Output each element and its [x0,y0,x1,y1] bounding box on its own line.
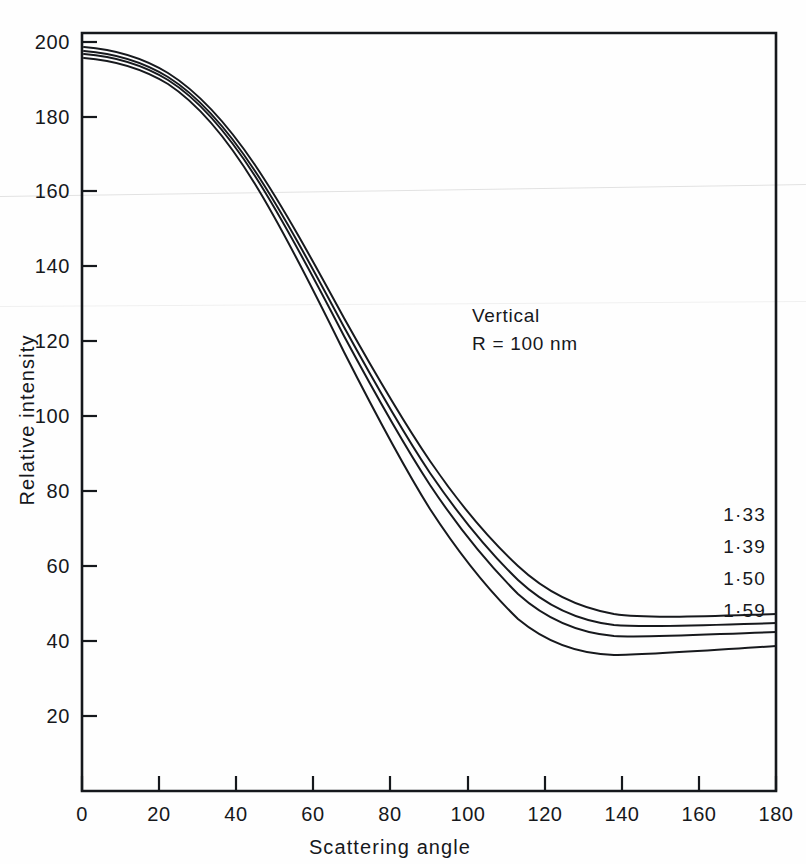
x-tick-label-20: 20 [147,803,170,825]
y-tick-label-80: 80 [47,480,70,502]
y-tick-label-140: 140 [35,255,70,277]
y-axis-tick-labels: 200 180 160 140 120 100 80 60 40 20 [35,31,70,727]
scattering-intensity-chart: 200 180 160 140 120 100 80 60 40 20 0 20… [0,0,806,864]
curve-n-1-50 [84,54,776,637]
y-tick-label-40: 40 [47,630,70,652]
y-axis-title: Relative intensity [16,335,38,506]
annotation-radius: R = 100 nm [472,333,578,354]
y-tick-label-100: 100 [35,405,70,427]
x-tick-label-160: 160 [681,803,716,825]
x-tick-label-100: 100 [450,803,485,825]
x-axis-tick-labels: 0 20 40 60 80 100 120 140 160 180 [76,803,793,825]
y-tick-label-160: 160 [35,180,70,202]
x-tick-label-120: 120 [527,803,562,825]
y-tick-label-20: 20 [47,705,70,727]
x-tick-label-60: 60 [301,803,324,825]
curve-n-1-59 [84,58,776,655]
series-labels: 1·33 1·39 1·50 1·59 [723,504,766,621]
y-tick-label-200: 200 [35,31,70,53]
curve-n-1-33 [84,47,776,617]
x-axis-ticks [82,776,776,791]
annotation-polarization: Vertical [472,305,540,326]
series-label-1-59: 1·59 [723,600,766,621]
x-tick-label-80: 80 [378,803,401,825]
curve-n-1-39 [84,51,776,626]
x-tick-label-140: 140 [604,803,639,825]
series-label-1-33: 1·33 [723,504,766,525]
y-tick-label-180: 180 [35,106,70,128]
x-axis-title: Scattering angle [309,836,471,858]
x-tick-label-40: 40 [224,803,247,825]
y-tick-label-120: 120 [35,330,70,352]
figure-root: 200 180 160 140 120 100 80 60 40 20 0 20… [0,0,806,864]
series-label-1-39: 1·39 [723,536,766,557]
y-axis-ticks [82,42,97,716]
x-tick-label-180: 180 [758,803,793,825]
y-tick-label-60: 60 [47,555,70,577]
x-tick-label-0: 0 [76,803,88,825]
plot-frame [82,33,776,791]
series-label-1-50: 1·50 [723,568,766,589]
